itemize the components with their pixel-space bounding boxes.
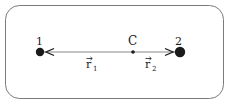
particle-2-label: 2: [175, 35, 182, 48]
center-label: C: [128, 34, 137, 48]
svg-text:1: 1: [93, 65, 97, 73]
svg-text:2: 2: [152, 65, 156, 73]
center-of-mass-diagram: 1 2 C r 1 r 2: [0, 0, 229, 104]
vector-r2-label: r 2: [145, 57, 156, 73]
center-of-mass-point: [131, 50, 135, 54]
particle-1-label: 1: [36, 35, 43, 48]
particle-2: [175, 47, 185, 57]
svg-text:r: r: [86, 58, 92, 71]
vector-r1-label: r 1: [86, 57, 97, 73]
svg-text:r: r: [145, 58, 151, 71]
particle-1: [36, 48, 44, 56]
